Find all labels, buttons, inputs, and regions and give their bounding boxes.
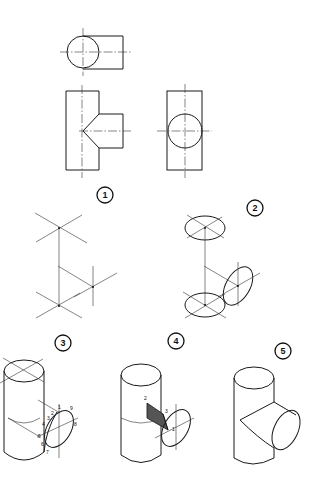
svg-text:1: 1: [102, 190, 107, 200]
svg-text:4: 4: [42, 421, 45, 427]
top-view: [60, 28, 131, 76]
step-badge-4: 4: [168, 333, 184, 349]
front-view: [66, 85, 131, 178]
svg-text:1: 1: [58, 404, 61, 410]
svg-text:5: 5: [38, 433, 41, 439]
svg-text:5: 5: [280, 346, 285, 356]
side-view: [157, 84, 212, 178]
step1-isometric-axes: [35, 213, 117, 318]
svg-text:9: 9: [70, 405, 73, 411]
svg-text:8: 8: [74, 421, 77, 427]
svg-text:2: 2: [51, 410, 54, 416]
svg-text:3: 3: [165, 408, 168, 414]
svg-text:2: 2: [144, 395, 147, 401]
svg-text:3: 3: [60, 338, 65, 348]
svg-text:2: 2: [252, 203, 257, 213]
svg-text:3: 3: [47, 415, 50, 421]
svg-text:7: 7: [46, 449, 49, 455]
step2-ellipses: [183, 215, 260, 318]
step5-finished-tpipe: [234, 367, 306, 464]
svg-text:6: 6: [41, 441, 44, 447]
step-badge-3: 3: [55, 335, 71, 351]
svg-text:4: 4: [173, 336, 178, 346]
step3-construction: 1 2 3 4 5 6 7 8 9: [0, 358, 79, 460]
step-badge-2: 2: [247, 200, 263, 216]
step-badge-1: 1: [97, 187, 113, 203]
step4-construction: 2 3 1: [121, 364, 196, 463]
step-badge-5: 5: [275, 343, 291, 359]
svg-text:1: 1: [172, 426, 175, 432]
